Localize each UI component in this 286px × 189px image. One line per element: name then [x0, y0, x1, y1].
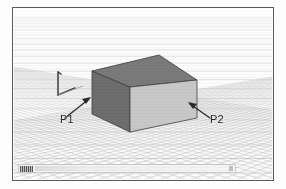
axis-gizmo-guide [58, 86, 83, 95]
thumbnail-icon [20, 166, 33, 172]
viewport-frame[interactable]: P1 P2 [12, 7, 274, 181]
annotation-label-p1: P1 [60, 113, 74, 125]
box-face-right [130, 80, 197, 132]
scene-layer [13, 8, 273, 180]
annotation-label-p2: P2 [210, 113, 224, 125]
status-text-field[interactable] [35, 166, 227, 171]
box-solid[interactable] [92, 55, 197, 132]
scrollbar-handle[interactable] [229, 166, 233, 171]
status-bar[interactable] [18, 164, 236, 173]
screenshot-root: P1 P2 [0, 0, 286, 189]
